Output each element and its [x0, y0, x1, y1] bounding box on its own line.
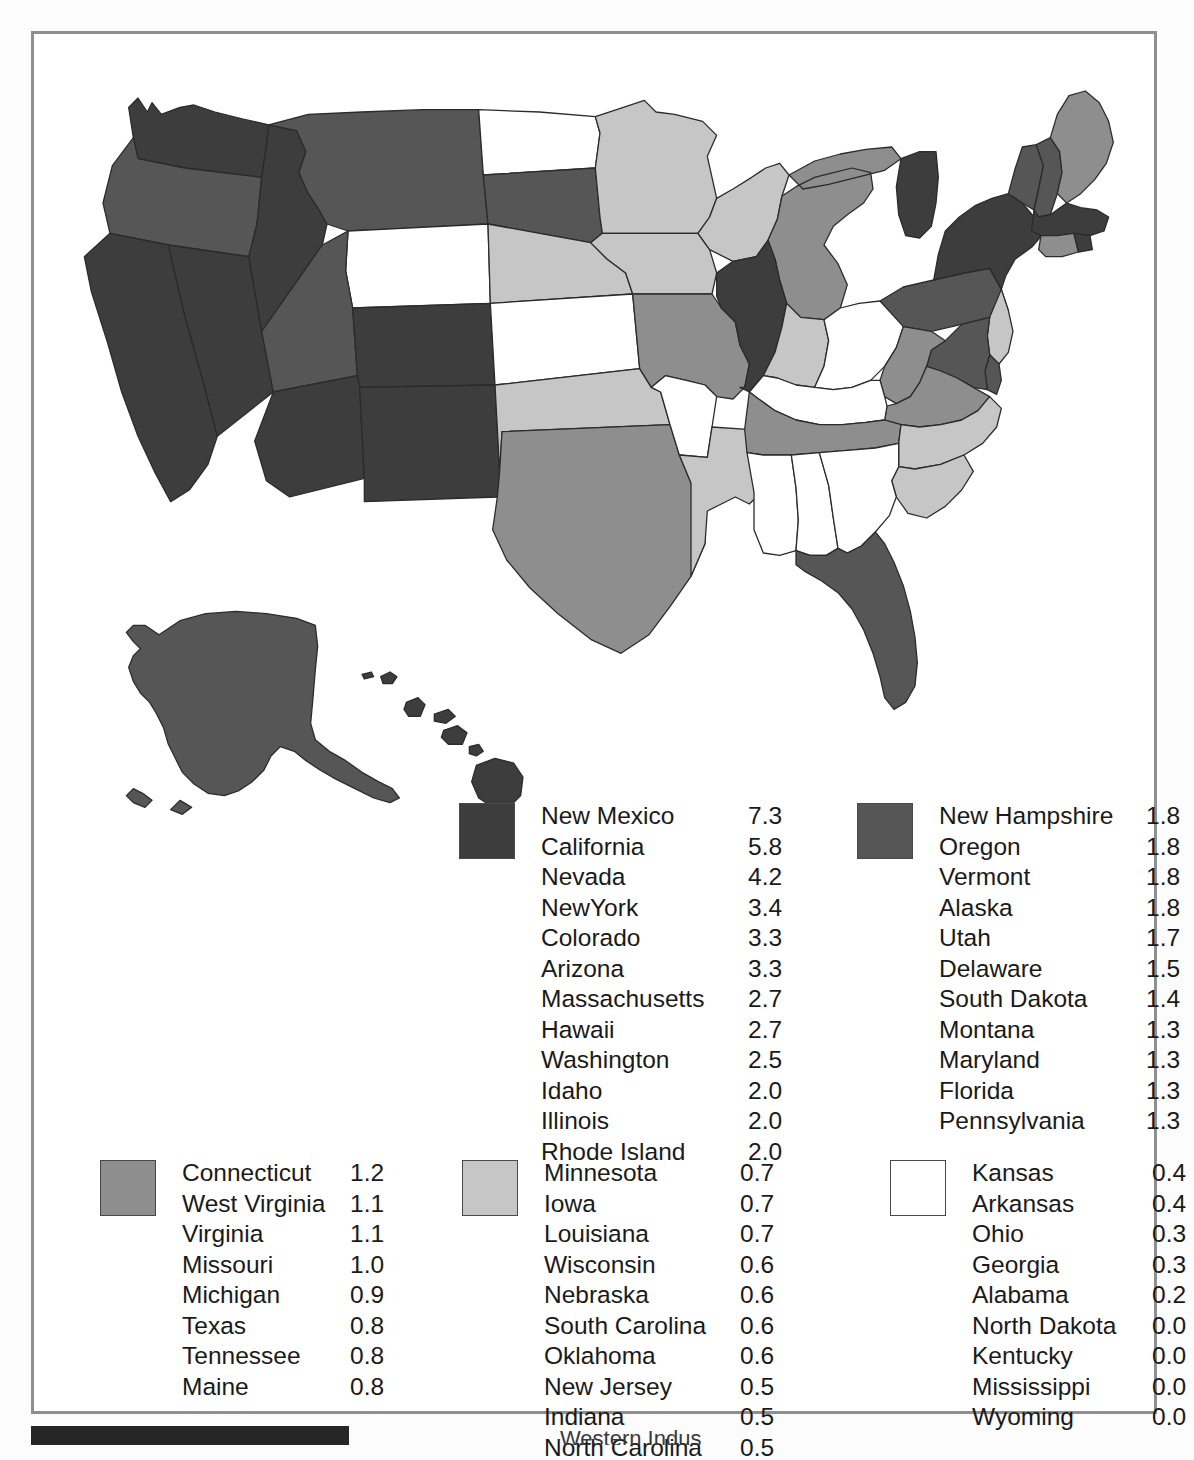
legend-state-name: Texas — [182, 1311, 350, 1342]
legend-row: Missouri1.0 — [182, 1250, 384, 1281]
legend-row: Minnesota0.7 — [544, 1158, 774, 1189]
state-CO — [353, 303, 495, 387]
state-HI — [381, 672, 397, 684]
legend-state-value: 0.9 — [350, 1280, 384, 1311]
legend-state-value: 1.3 — [1146, 1015, 1180, 1046]
legend-row: North Dakota0.0 — [972, 1311, 1186, 1342]
legend-state-value: 2.5 — [748, 1045, 782, 1076]
legend-state-name: Colorado — [541, 923, 748, 954]
legend-state-name: Montana — [939, 1015, 1146, 1046]
legend-row: South Carolina0.6 — [544, 1311, 774, 1342]
legend-state-value: 1.5 — [1146, 954, 1180, 985]
legend-state-name: Massachusetts — [541, 984, 748, 1015]
legend-row: New Hampshire1.8 — [939, 801, 1180, 832]
legend-state-name: Florida — [939, 1076, 1146, 1107]
legend-state-value: 1.3 — [1146, 1106, 1180, 1137]
legend-state-value: 0.0 — [1152, 1372, 1186, 1403]
legend-state-value: 2.0 — [748, 1076, 782, 1107]
legend-state-name: Michigan — [182, 1280, 350, 1311]
legend-state-name: Maine — [182, 1372, 350, 1403]
legend-state-name: Mississippi — [972, 1372, 1152, 1403]
legend-state-name: Minnesota — [544, 1158, 740, 1189]
legend-group-tier3: Connecticut1.2 West Virginia1.1 Virginia… — [100, 1158, 384, 1402]
legend-row: Alabama0.2 — [972, 1280, 1186, 1311]
legend-state-value: 0.7 — [740, 1189, 774, 1220]
legend-group-tier5: Kansas0.4 Arkansas0.4 Ohio0.3 Georgia0.3… — [890, 1158, 1186, 1433]
legend-row: Iowa0.7 — [544, 1189, 774, 1220]
legend-state-name: Virginia — [182, 1219, 350, 1250]
legend-row: Vermont1.8 — [939, 862, 1180, 893]
legend-row: Idaho2.0 — [541, 1076, 782, 1107]
legend-row: Michigan0.9 — [182, 1280, 384, 1311]
legend-row: Florida1.3 — [939, 1076, 1180, 1107]
legend-state-value: 0.7 — [740, 1158, 774, 1189]
legend-rows-tier5: Kansas0.4 Arkansas0.4 Ohio0.3 Georgia0.3… — [972, 1158, 1186, 1433]
legend-state-value: 0.0 — [1152, 1341, 1186, 1372]
legend-row: Maryland1.3 — [939, 1045, 1180, 1076]
state-HI-5 — [469, 744, 483, 756]
legend-swatch-tier1 — [459, 803, 515, 859]
legend-state-value: 0.6 — [740, 1311, 774, 1342]
legend-state-name: Vermont — [939, 862, 1146, 893]
legend-row: Wisconsin0.6 — [544, 1250, 774, 1281]
legend-row: Maine0.8 — [182, 1372, 384, 1403]
legend-row: Louisiana0.7 — [544, 1219, 774, 1250]
legend-state-name: Wisconsin — [544, 1250, 740, 1281]
state-WY — [346, 224, 491, 308]
legend-state-name: Alaska — [939, 893, 1146, 924]
legend-state-name: New Jersey — [544, 1372, 740, 1403]
legend-state-name: Kansas — [972, 1158, 1152, 1189]
state-ND — [479, 110, 600, 175]
legend-swatch-tier4 — [462, 1160, 518, 1216]
legend-state-name: NewYork — [541, 893, 748, 924]
state-MS — [747, 453, 798, 556]
legend-state-name: West Virginia — [182, 1189, 350, 1220]
legend-state-value: 0.8 — [350, 1341, 384, 1372]
legend-swatch-tier3 — [100, 1160, 156, 1216]
legend-state-value: 1.8 — [1146, 893, 1180, 924]
state-MN — [595, 100, 716, 233]
legend-state-name: New Hampshire — [939, 801, 1146, 832]
us-map-svg — [68, 68, 1188, 828]
legend-row: Georgia0.3 — [972, 1250, 1186, 1281]
legend-state-name: Nevada — [541, 862, 748, 893]
legend-state-name: Iowa — [544, 1189, 740, 1220]
legend-state-value: 1.0 — [350, 1250, 384, 1281]
legend-state-value: 0.7 — [740, 1219, 774, 1250]
bottom-black-bar — [31, 1426, 349, 1445]
legend-state-value: 0.2 — [1152, 1280, 1186, 1311]
legend-state-name: Arkansas — [972, 1189, 1152, 1220]
state-NM — [360, 385, 500, 502]
legend-state-name: Kentucky — [972, 1341, 1152, 1372]
legend-state-value: 1.8 — [1146, 862, 1180, 893]
legend-state-name: California — [541, 832, 748, 863]
legend-state-value: 1.7 — [1146, 923, 1180, 954]
legend-state-name: Alabama — [972, 1280, 1152, 1311]
legend-state-value: 4.2 — [748, 862, 782, 893]
legend-state-value: 0.8 — [350, 1372, 384, 1403]
legend-group-tier2: New Hampshire1.8 Oregon1.8 Vermont1.8 Al… — [857, 801, 1180, 1137]
state-FL — [796, 532, 917, 709]
legend-row: Pennsylvania1.3 — [939, 1106, 1180, 1137]
legend-state-name: Utah — [939, 923, 1146, 954]
legend-state-value: 1.2 — [350, 1158, 384, 1189]
state-HI-7 — [362, 672, 374, 679]
legend-state-value: 1.4 — [1146, 984, 1180, 1015]
legend-rows-tier1: New Mexico7.3 California5.8 Nevada4.2 Ne… — [541, 801, 782, 1167]
legend-state-name: Hawaii — [541, 1015, 748, 1046]
legend-row: Montana1.3 — [939, 1015, 1180, 1046]
legend-row: Tennessee0.8 — [182, 1341, 384, 1372]
legend-state-name: Idaho — [541, 1076, 748, 1107]
legend-state-name: Delaware — [939, 954, 1146, 985]
legend-state-value: 0.3 — [1152, 1250, 1186, 1281]
legend-row: Ohio0.3 — [972, 1219, 1186, 1250]
legend-state-value: 1.3 — [1146, 1076, 1180, 1107]
legend-state-value: 1.1 — [350, 1189, 384, 1220]
state-TX — [493, 425, 705, 654]
legend-row: Oklahoma0.6 — [544, 1341, 774, 1372]
legend-state-name: Tennessee — [182, 1341, 350, 1372]
legend-row: Kentucky0.0 — [972, 1341, 1186, 1372]
legend-state-name: Georgia — [972, 1250, 1152, 1281]
legend-rows-tier2: New Hampshire1.8 Oregon1.8 Vermont1.8 Al… — [939, 801, 1180, 1137]
legend-rows-tier3: Connecticut1.2 West Virginia1.1 Virginia… — [182, 1158, 384, 1402]
